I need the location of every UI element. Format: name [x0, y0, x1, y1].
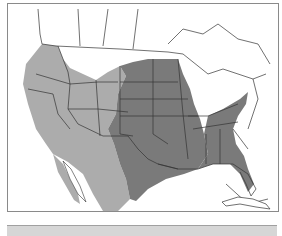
range-dark-southeast: [198, 92, 254, 192]
range-map-svg: [8, 4, 278, 211]
bottom-bar: [7, 225, 277, 236]
range-map: [7, 3, 279, 212]
cuba-outline: [222, 197, 270, 209]
